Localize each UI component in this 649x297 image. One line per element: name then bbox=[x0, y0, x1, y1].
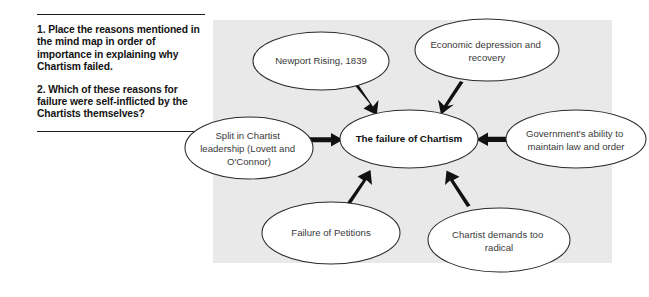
node-demands-too-radical[interactable]: Chartist demands too radical bbox=[428, 208, 570, 272]
node-center-label: The failure of Chartism bbox=[356, 133, 463, 144]
node-newport-rising[interactable]: Newport Rising, 1839 bbox=[253, 32, 389, 90]
node-economic-depression[interactable]: Economic depression and recovery bbox=[415, 19, 559, 81]
node-economic-depression-shape bbox=[415, 19, 559, 81]
mindmap-diagram: Newport Rising, 1839 Economic depression… bbox=[0, 0, 649, 297]
arrow-economic-to-center bbox=[438, 81, 464, 115]
node-government-ability-shape bbox=[506, 110, 646, 168]
node-government-ability[interactable]: Government's ability to maintain law and… bbox=[506, 110, 646, 168]
node-demands-too-radical-shape bbox=[428, 208, 570, 272]
page-root: 1. Place the reasons mentioned in the mi… bbox=[0, 0, 649, 297]
node-center-failure-of-chartism[interactable]: The failure of Chartism bbox=[340, 110, 478, 168]
arrow-radical-to-center bbox=[445, 171, 471, 208]
node-newport-rising-label: Newport Rising, 1839 bbox=[275, 55, 367, 66]
arrow-split-to-center bbox=[309, 133, 343, 147]
node-failure-of-petitions-label: Failure of Petitions bbox=[291, 227, 371, 238]
node-failure-of-petitions[interactable]: Failure of Petitions bbox=[262, 202, 400, 264]
arrow-government-to-center bbox=[476, 133, 509, 147]
node-split-leadership[interactable]: Split in Chartist leadership (Lovett and… bbox=[185, 117, 313, 179]
arrow-petitions-to-center bbox=[346, 170, 373, 207]
